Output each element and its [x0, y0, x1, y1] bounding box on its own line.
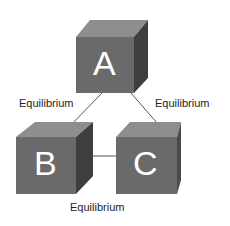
node-b-label: B [34, 144, 57, 183]
edge-a-c-label: Equilibrium [155, 97, 209, 109]
edge-a-b-label: Equilibrium [19, 97, 73, 109]
edge-b-c-label: Equilibrium [70, 201, 124, 213]
diagram-canvas [0, 0, 230, 226]
node-a-label: A [93, 44, 116, 83]
node-c-label: C [133, 144, 158, 183]
